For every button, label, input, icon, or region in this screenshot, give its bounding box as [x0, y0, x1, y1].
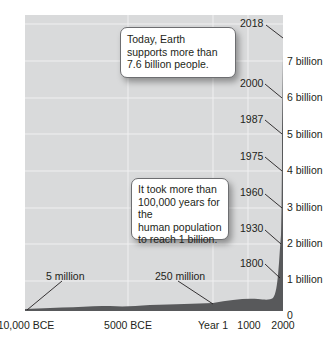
y-tick-3-billion: 3 billion: [287, 201, 323, 213]
label-year-1975: 1975: [240, 150, 263, 162]
x-tick-year-1: Year 1: [198, 319, 228, 331]
x-tick-10000-bce: 10,000 BCE: [0, 319, 54, 331]
x-tick-2000: 2000: [271, 319, 294, 331]
callout-today-line-3: 7.6 billion people.: [127, 58, 229, 71]
y-tick-6-billion: 6 billion: [287, 91, 323, 103]
label-250-million: 250 million: [155, 270, 205, 282]
callout-today-line-2: supports more than: [127, 46, 229, 59]
callout-took-line-1: It took more than: [138, 183, 222, 196]
y-tick-5-billion: 5 billion: [287, 128, 323, 140]
population-chart: 5 million 250 million 1800 1930 1960 197…: [0, 0, 335, 339]
callout-100000-years: It took more than 100,000 years for the …: [131, 178, 229, 240]
callout-took-line-2: 100,000 years for the: [138, 196, 222, 221]
label-year-2000: 2000: [240, 77, 263, 89]
label-year-1800: 1800: [240, 257, 263, 269]
label-year-1987: 1987: [240, 113, 263, 125]
x-tick-5000-bce: 5000 BCE: [104, 319, 152, 331]
label-year-1960: 1960: [240, 186, 263, 198]
y-tick-7-billion: 7 billion: [287, 55, 323, 67]
y-tick-2-billion: 2 billion: [287, 237, 323, 249]
callout-took-line-3: human population: [138, 221, 222, 234]
x-tick-1000: 1000: [237, 319, 260, 331]
callout-today: Today, Earth supports more than 7.6 bill…: [120, 27, 236, 78]
label-5-million: 5 million: [46, 270, 85, 282]
callout-today-line-1: Today, Earth: [127, 33, 229, 46]
y-tick-1-billion: 1 billion: [287, 273, 323, 285]
label-year-2018: 2018: [240, 17, 263, 29]
callout-took-line-4: to reach 1 billion.: [138, 233, 222, 246]
label-year-1930: 1930: [240, 222, 263, 234]
y-tick-4-billion: 4 billion: [287, 164, 323, 176]
